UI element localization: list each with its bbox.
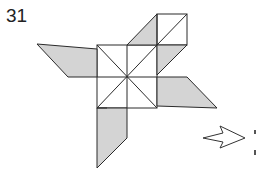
right-arrow-icon	[0, 0, 257, 179]
cropped-edge-mark	[254, 130, 256, 134]
cropped-edge-mark	[254, 150, 256, 155]
